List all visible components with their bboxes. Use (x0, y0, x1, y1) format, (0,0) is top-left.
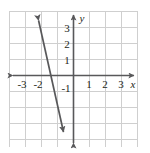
y-tick-label-neg1: -1 (61, 82, 70, 94)
x-tick-label-1: 1 (86, 78, 92, 90)
x-tick-label-neg2: -2 (33, 78, 42, 90)
x-axis-label: x (130, 78, 136, 90)
y-axis-label: y (79, 12, 85, 24)
x-tick-label-neg3: -3 (17, 78, 27, 90)
coordinate-plane-graph: -3 -2 1 2 3 3 2 1 -1 x y (0, 0, 150, 153)
graph-canvas: -3 -2 1 2 3 3 2 1 -1 x y (0, 0, 150, 153)
y-tick-label-3: 3 (64, 22, 70, 34)
y-tick-label-2: 2 (64, 38, 70, 50)
x-tick-label-3: 3 (118, 78, 124, 90)
x-tick-label-2: 2 (102, 78, 108, 90)
y-tick-label-1: 1 (64, 54, 70, 66)
